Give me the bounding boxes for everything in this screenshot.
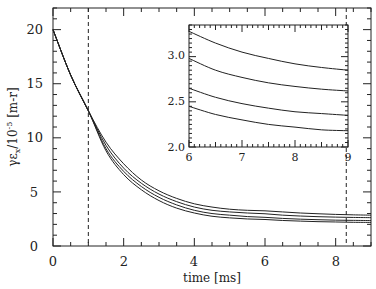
inset-x-tick-9: 9 xyxy=(345,151,352,164)
x-tick-2: 2 xyxy=(120,254,128,269)
inset-x-tick-labels: 6 7 8 9 xyxy=(186,151,352,164)
y-axis-title: γεx/10-5 [m-r] xyxy=(5,87,22,166)
inset-x-tick-8: 8 xyxy=(292,151,299,164)
x-tick-4: 4 xyxy=(190,254,198,269)
x-tick-labels: 0 2 4 6 8 xyxy=(49,254,340,269)
inset-x-tick-7: 7 xyxy=(239,151,246,164)
y-tick-20: 20 xyxy=(26,22,43,37)
x-tick-8: 8 xyxy=(332,254,340,269)
y-tick-5: 5 xyxy=(30,185,38,200)
x-tick-6: 6 xyxy=(261,254,269,269)
x-tick-0: 0 xyxy=(49,254,57,269)
inset-x-tick-6: 6 xyxy=(186,151,193,164)
y-tick-15: 15 xyxy=(26,76,43,91)
y-tick-labels: 0 5 10 15 20 xyxy=(26,22,43,254)
y-tick-10: 10 xyxy=(26,130,43,145)
inset-y-tick-labels: 2.0 2.5 3.0 xyxy=(168,49,186,154)
inset-plot-frame xyxy=(189,25,348,147)
x-axis-title: time [ms] xyxy=(183,271,241,285)
inset-y-tick-3.0: 3.0 xyxy=(168,49,186,62)
inset-y-tick-2.0: 2.0 xyxy=(168,141,186,154)
chart: 0 2 4 6 8 0 5 10 15 20 time [ms] γεx/10-… xyxy=(0,0,376,289)
inset-y-tick-2.5: 2.5 xyxy=(168,95,186,108)
y-tick-0: 0 xyxy=(30,239,38,254)
